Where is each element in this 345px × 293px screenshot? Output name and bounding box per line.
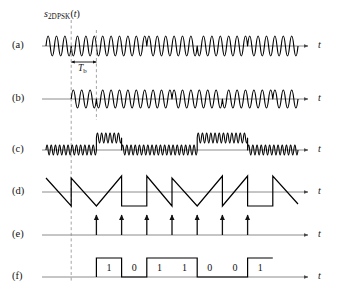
bit-period-label: Tb bbox=[78, 63, 87, 74]
row-b-group bbox=[42, 90, 308, 108]
waveform-canvas bbox=[0, 0, 345, 293]
row-c-group bbox=[42, 133, 308, 155]
row-label-f: (f) bbox=[12, 270, 23, 281]
bit-digit-7: 1 bbox=[258, 262, 263, 273]
row-label-d: (d) bbox=[12, 185, 24, 196]
bit-digit-1: 1 bbox=[107, 262, 112, 273]
bit-digit-6: 0 bbox=[233, 262, 238, 273]
row-f-group bbox=[42, 258, 308, 277]
row-d-waveform bbox=[46, 176, 298, 206]
row-label-c: (c) bbox=[12, 143, 24, 154]
signal-title-subscript: 2DPSK bbox=[48, 13, 70, 21]
row-label-a: (a) bbox=[12, 39, 24, 50]
sampling-impulse-train bbox=[96, 215, 247, 235]
row-a-waveform bbox=[46, 36, 298, 56]
row-label-b: (b) bbox=[12, 92, 24, 103]
bit-digit-5: 0 bbox=[207, 262, 212, 273]
axis-label-t-row-d: t bbox=[318, 185, 321, 196]
signal-title: s2DPSK(t) bbox=[44, 8, 80, 21]
bit-digit-4: 1 bbox=[182, 262, 187, 273]
signal-title-argument: (t) bbox=[70, 8, 79, 19]
row-b-waveform bbox=[71, 90, 298, 108]
row-label-e: (e) bbox=[12, 228, 24, 239]
axis-label-t-row-a: t bbox=[318, 39, 321, 50]
row-a-group bbox=[42, 36, 308, 56]
axis-label-t-row-b: t bbox=[318, 92, 321, 103]
axis-label-t-row-c: t bbox=[318, 143, 321, 154]
bit-digit-2: 0 bbox=[132, 262, 137, 273]
tb-subscript: b bbox=[83, 67, 86, 74]
axis-label-t-row-e: t bbox=[318, 228, 321, 239]
row-c-waveform bbox=[46, 133, 298, 155]
row-e-group bbox=[42, 215, 308, 235]
axis-label-t-row-f: t bbox=[318, 270, 321, 281]
row-d-group bbox=[42, 176, 308, 206]
bit-digit-3: 1 bbox=[157, 262, 162, 273]
timing-diagram-figure: (a) (b) (c) (d) (e) (f) s2DPSK(t) Tb t t… bbox=[0, 0, 345, 293]
